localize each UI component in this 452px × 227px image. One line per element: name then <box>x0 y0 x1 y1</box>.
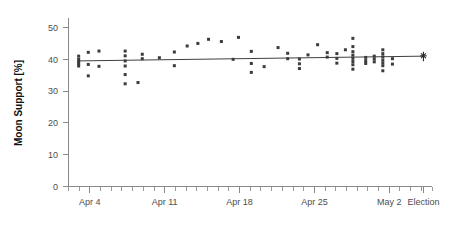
data-point <box>136 81 139 84</box>
x-tick-label: Election <box>407 197 439 207</box>
data-point <box>364 56 367 59</box>
chart-container: 01020304050 Moon Support [%] Apr 4Apr 11… <box>0 0 452 227</box>
trend-line-path <box>79 56 424 61</box>
data-point <box>250 62 253 65</box>
data-point <box>351 45 354 48</box>
data-points <box>77 36 394 85</box>
data-point <box>364 62 367 65</box>
data-point <box>277 46 280 49</box>
data-point <box>173 51 176 54</box>
data-point <box>298 62 301 65</box>
data-point <box>351 57 354 60</box>
data-point <box>124 73 127 76</box>
data-point <box>351 37 354 40</box>
y-tick-label: 30 <box>48 86 58 96</box>
data-point <box>344 48 347 51</box>
data-point <box>381 52 384 55</box>
x-tick-label: May 2 <box>377 197 402 207</box>
y-axis-ticks <box>63 28 69 187</box>
x-tick-label: Apr 11 <box>152 197 178 207</box>
data-point <box>381 61 384 64</box>
data-point <box>124 50 127 53</box>
data-point <box>381 55 384 58</box>
data-point <box>373 60 376 63</box>
data-point <box>87 74 90 77</box>
data-point <box>250 71 253 74</box>
data-point <box>381 64 384 67</box>
data-point <box>263 65 266 68</box>
data-point <box>97 50 100 53</box>
data-point <box>306 53 309 56</box>
data-point <box>207 38 210 41</box>
data-point <box>351 50 354 53</box>
data-point <box>364 59 367 62</box>
data-point <box>173 64 176 67</box>
data-point <box>124 65 127 68</box>
data-point <box>326 56 329 59</box>
y-axis-tick-labels: 01020304050 <box>48 23 58 192</box>
data-point <box>351 54 354 57</box>
y-tick-label: 10 <box>48 150 58 160</box>
data-point <box>220 40 223 43</box>
data-point <box>381 58 384 61</box>
data-point <box>141 57 144 60</box>
x-tick-label: Apr 4 <box>79 197 101 207</box>
data-point <box>97 65 100 68</box>
y-axis-title: Moon Support [%] <box>13 60 24 146</box>
data-point <box>77 65 80 68</box>
data-point <box>124 82 127 85</box>
x-axis-minor-ticks <box>69 187 433 191</box>
x-axis-tick-labels: Apr 4Apr 11Apr 18Apr 25May 2Election <box>79 197 439 207</box>
y-axis: 01020304050 Moon Support [%] <box>13 18 69 192</box>
data-point <box>298 67 301 70</box>
data-point <box>77 55 80 58</box>
data-point <box>232 58 235 61</box>
data-point <box>250 50 253 53</box>
data-point <box>335 52 338 55</box>
data-point <box>141 53 144 56</box>
data-point <box>286 52 289 55</box>
data-point <box>124 54 127 57</box>
data-point <box>391 57 394 60</box>
data-point <box>335 62 338 65</box>
trend-line <box>79 56 424 61</box>
x-tick-label: Apr 18 <box>226 197 253 207</box>
data-point <box>351 68 354 71</box>
data-point <box>373 58 376 61</box>
data-point <box>351 60 354 63</box>
data-point <box>124 59 127 62</box>
x-axis: Apr 4Apr 11Apr 18Apr 25May 2Election <box>69 187 440 208</box>
data-point <box>196 42 199 45</box>
x-tick-label: Apr 25 <box>301 197 328 207</box>
data-point <box>186 44 189 47</box>
data-point <box>391 63 394 66</box>
data-point <box>351 63 354 66</box>
data-point <box>158 56 161 59</box>
y-tick-label: 20 <box>48 118 58 128</box>
y-tick-label: 0 <box>53 182 58 192</box>
data-point <box>87 63 90 66</box>
x-axis-major-ticks <box>90 187 424 193</box>
data-point <box>381 69 384 72</box>
data-point <box>335 57 338 60</box>
data-point <box>237 36 240 39</box>
data-point <box>316 43 319 46</box>
data-point <box>326 51 329 54</box>
y-tick-label: 40 <box>48 55 58 65</box>
data-point <box>381 48 384 51</box>
scatter-plot: 01020304050 Moon Support [%] Apr 4Apr 11… <box>0 0 452 227</box>
data-point <box>87 51 90 54</box>
data-point <box>286 57 289 60</box>
data-point <box>298 58 301 61</box>
data-point <box>373 55 376 58</box>
y-tick-label: 50 <box>48 23 58 33</box>
